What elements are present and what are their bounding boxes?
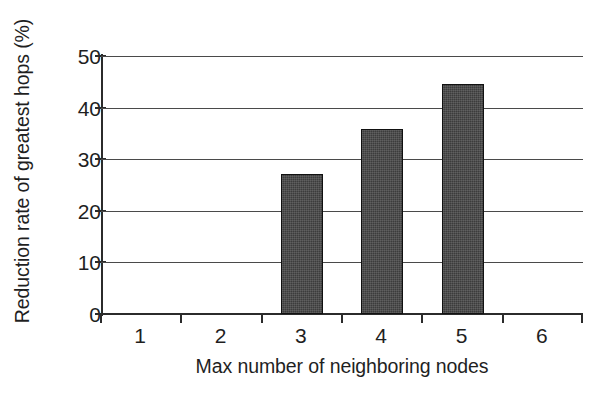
y-axis-title: Reduction rate of greatest hops (%)	[0, 6, 44, 336]
x-axis-title: Max number of neighboring nodes	[101, 355, 583, 378]
bar-category-5	[442, 84, 484, 314]
x-tick-mark-5	[502, 314, 504, 323]
y-tick-label-0: 0	[53, 304, 101, 325]
y-tick-label-30: 30	[53, 149, 101, 170]
gridline-10	[101, 262, 583, 263]
y-tick-label-50: 50	[53, 46, 101, 67]
gridline-40	[101, 108, 583, 109]
y-tick-label-40: 40	[53, 97, 101, 118]
bar-category-3	[281, 174, 323, 314]
x-tick-label-1: 1	[110, 325, 170, 346]
y-tick-label-20: 20	[53, 200, 101, 221]
y-tick-label-10: 10	[53, 252, 101, 273]
x-tick-label-5: 5	[432, 325, 492, 346]
x-tick-label-2: 2	[191, 325, 251, 346]
x-tick-mark-3	[341, 314, 343, 323]
plot-area	[101, 56, 583, 314]
bar-category-4	[361, 129, 403, 314]
gridline-30	[101, 159, 583, 160]
x-tick-mark-2	[261, 314, 263, 323]
x-tick-mark-1	[180, 314, 182, 323]
x-tick-mark-6	[581, 314, 583, 323]
x-tick-mark-0	[100, 314, 102, 323]
y-axis-tick-labels: 0 10 20 30 40 50	[43, 56, 101, 314]
bar-chart-figure: Reduction rate of greatest hops (%) 0 10…	[0, 0, 607, 399]
x-tick-mark-4	[421, 314, 423, 323]
gridline-50	[101, 56, 583, 57]
x-tick-label-3: 3	[271, 325, 331, 346]
x-tick-label-6: 6	[512, 325, 572, 346]
gridline-20	[101, 211, 583, 212]
x-tick-label-4: 4	[351, 325, 411, 346]
